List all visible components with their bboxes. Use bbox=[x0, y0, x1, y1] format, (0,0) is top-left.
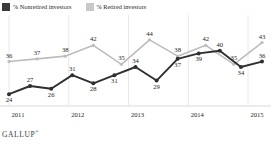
data-label: 27 bbox=[27, 76, 34, 83]
data-label: 38 bbox=[62, 46, 69, 53]
gridlines bbox=[9, 15, 248, 105]
x-axis-tick-label: 2014 bbox=[191, 110, 204, 120]
data-point bbox=[64, 55, 67, 58]
data-point bbox=[36, 57, 39, 60]
data-point bbox=[134, 65, 138, 69]
data-label: 34 bbox=[238, 69, 245, 76]
series-line-nonretired bbox=[7, 49, 264, 96]
data-label: 37 bbox=[174, 61, 181, 68]
data-point bbox=[28, 84, 32, 88]
data-point bbox=[148, 38, 151, 41]
data-label: 43 bbox=[259, 33, 266, 40]
plot-area: 36373842354438423543 2427263128313429373… bbox=[0, 15, 271, 107]
data-label: 36 bbox=[6, 52, 13, 59]
x-axis: 20112012201320142015 bbox=[0, 110, 271, 122]
legend-swatch-retired-icon bbox=[86, 3, 94, 11]
data-label: 36 bbox=[259, 52, 266, 59]
data-label: 44 bbox=[146, 30, 153, 37]
data-label: 39 bbox=[195, 55, 202, 62]
x-axis-tick-label: 2015 bbox=[250, 110, 263, 120]
data-label: 24 bbox=[6, 96, 13, 103]
legend-swatch-nonretired-icon bbox=[2, 3, 10, 11]
gallup-brand: GALLUP® bbox=[2, 129, 39, 139]
x-axis-tick-label: 2011 bbox=[12, 110, 25, 120]
data-point bbox=[70, 73, 74, 77]
data-point bbox=[204, 44, 207, 47]
data-labels-nonretired: 24272631283134293739403436 bbox=[6, 41, 266, 103]
legend-label-nonretired: % Nonretired investors bbox=[13, 3, 72, 11]
data-label: 29 bbox=[153, 83, 160, 90]
data-label: 35 bbox=[118, 54, 125, 61]
data-label: 40 bbox=[217, 41, 224, 48]
data-label: 34 bbox=[132, 57, 139, 64]
data-label: 42 bbox=[90, 35, 97, 42]
legend-item-retired[interactable]: % Retired investors bbox=[86, 3, 147, 11]
data-point bbox=[260, 41, 263, 44]
chart-legend: % Nonretired investors % Retired investo… bbox=[0, 0, 271, 14]
data-label: 28 bbox=[90, 85, 97, 92]
data-label: 38 bbox=[174, 46, 181, 53]
data-label: 42 bbox=[202, 35, 209, 42]
data-label: 26 bbox=[48, 91, 55, 98]
data-point bbox=[120, 63, 123, 66]
data-label: 31 bbox=[111, 77, 118, 84]
legend-label-retired: % Retired investors bbox=[97, 3, 147, 11]
data-point bbox=[7, 60, 10, 63]
data-point bbox=[92, 44, 95, 47]
registered-mark-icon: ® bbox=[35, 129, 39, 134]
legend-item-nonretired[interactable]: % Nonretired investors bbox=[2, 3, 72, 11]
data-point bbox=[218, 49, 222, 53]
plot-svg: 36373842354438423543 2427263128313429373… bbox=[0, 15, 271, 112]
x-axis-tick-label: 2013 bbox=[131, 110, 144, 120]
data-label: 35 bbox=[231, 54, 238, 61]
data-label: 31 bbox=[69, 65, 76, 72]
data-label: 37 bbox=[34, 49, 41, 56]
gallup-brand-text: GALLUP bbox=[2, 130, 35, 139]
x-axis-tick-label: 2012 bbox=[71, 110, 84, 120]
data-point bbox=[260, 60, 264, 64]
gallup-line-chart: % Nonretired investors % Retired investo… bbox=[0, 0, 271, 147]
